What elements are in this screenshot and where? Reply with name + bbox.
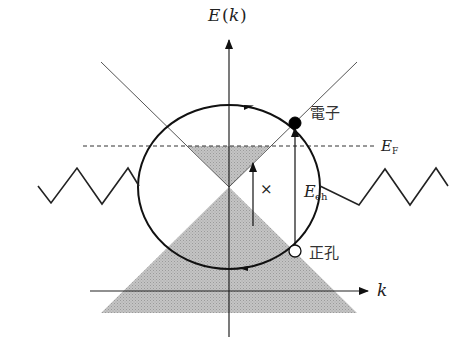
- dirac-cone-diagram: E ( k ) k E F E eh × 電子 正孔: [0, 0, 469, 339]
- zigzag-lead-left: [38, 168, 139, 204]
- energy-axis-label-E: E: [207, 5, 221, 25]
- excitation-energy-subscript: eh: [315, 191, 328, 202]
- k-axis-label: k: [377, 280, 387, 300]
- fermi-level-subscript: F: [392, 146, 398, 156]
- energy-axis-label-k: k: [229, 5, 239, 25]
- zigzag-lead-right: [320, 168, 448, 205]
- energy-axis-label-paren-close: ): [240, 5, 247, 25]
- forbidden-mark: ×: [260, 180, 273, 198]
- electron-label: 電子: [310, 104, 340, 122]
- energy-axis-label-paren-open: (: [222, 5, 229, 25]
- electron-dot: [289, 117, 301, 129]
- hole-label: 正孔: [309, 244, 339, 262]
- cone-line-left: [101, 62, 229, 187]
- fermi-level-label: E: [380, 137, 392, 155]
- hole-dot: [289, 245, 301, 257]
